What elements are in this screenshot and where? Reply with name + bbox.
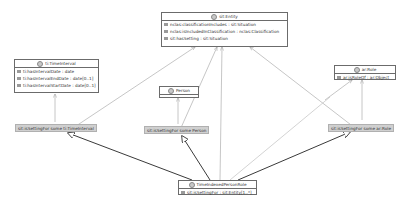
class-header: sit:Entity — [162, 13, 287, 21]
attribute-icon — [17, 77, 21, 80]
class-header: Person — [160, 87, 198, 95]
attribute-row: sit:hasSetting : sit:Situation — [162, 35, 287, 42]
attribute-row: sit:isSettingFor : sit:Entity[1..*] — [179, 189, 256, 196]
class-sit-entity[interactable]: sit:Entity nclas:classificationIncludes … — [161, 12, 288, 47]
class-ar-role[interactable]: ar:Role ar:isRoleOf : ar:Object — [334, 65, 396, 80]
class-icon — [37, 61, 43, 67]
class-time-indexed-person-role[interactable]: TimeIndexedPersonRole sit:isSettingFor :… — [178, 180, 257, 195]
class-header: TimeIndexedPersonRole — [179, 181, 256, 189]
class-icon — [168, 88, 174, 94]
attribute-icon — [337, 76, 341, 79]
attribute-icon — [164, 37, 168, 40]
restriction-role[interactable]: sit:isSettingFor some ar:Role — [328, 124, 394, 132]
class-header: ar:Role — [335, 66, 395, 74]
attribute-row: ti:hasIntervalStartDate : date[0..1] — [15, 82, 98, 89]
attribute-icon — [164, 30, 168, 33]
attribute-icon — [17, 70, 21, 73]
attribute-icon — [17, 84, 21, 87]
attribute-row: ti:hasIntervalDate : date — [15, 68, 98, 75]
attribute-icon — [164, 23, 168, 26]
attribute-row: ar:isRoleOf : ar:Object — [335, 74, 395, 81]
class-icon — [211, 14, 217, 20]
attribute-icon — [181, 191, 185, 194]
class-icon — [354, 67, 360, 73]
attribute-row: nclas:classificationIncludes : sit:Situa… — [162, 21, 287, 28]
attribute-row: ti:hasIntervalEndDate : date[0..1] — [15, 75, 98, 82]
class-icon — [189, 182, 195, 188]
class-person[interactable]: Person — [159, 86, 199, 98]
class-time-interval[interactable]: ti:TimeInterval ti:hasIntervalDate : dat… — [14, 59, 99, 93]
attribute-row: nclas:isIncludedInClassification : nclas… — [162, 28, 287, 35]
restriction-time-interval[interactable]: sit:isSettingFor some ti:TimeInterval — [15, 124, 97, 132]
restriction-person[interactable]: sit:isSettingFor some Person — [144, 126, 209, 134]
class-header: ti:TimeInterval — [15, 60, 98, 68]
